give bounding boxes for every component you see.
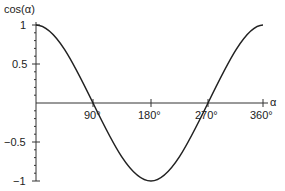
- x-tick-270: 270°: [195, 109, 218, 121]
- y-axis-label: cos(α): [4, 3, 35, 15]
- x-tick-90: 90°: [84, 109, 101, 121]
- cosine-chart: cos(α) α 1 0.5 −0.5 −1 90° 180° 270° 360…: [0, 0, 285, 191]
- y-tick-neg0.5: −0.5: [4, 136, 26, 148]
- y-tick-1: 1: [20, 19, 26, 31]
- x-axis-label: α: [270, 96, 277, 108]
- x-tick-180: 180°: [138, 109, 161, 121]
- y-tick-neg1: −1: [13, 175, 26, 187]
- y-tick-0.5: 0.5: [12, 58, 27, 70]
- x-tick-360: 360°: [250, 109, 273, 121]
